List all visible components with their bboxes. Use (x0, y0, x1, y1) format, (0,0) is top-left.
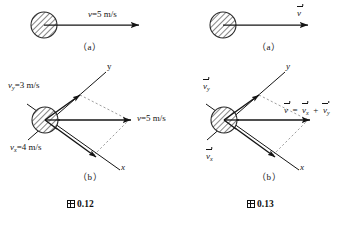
right-panel-a-group (210, 12, 308, 38)
left-figure-caption: 0.12 (67, 199, 94, 209)
left-panel-b-sublabel: （b） (78, 173, 102, 182)
cjk-tu-character-icon (247, 200, 255, 208)
left-panel-a-group (31, 12, 139, 38)
right-panel-a-velocity-label: v (297, 9, 301, 18)
left-panel-b-vx-label: vx=4 m/s (10, 143, 42, 152)
right-panel-b-dashed-line-vx-to-v (273, 120, 308, 155)
right-panel-b-x-axis-label: x (300, 163, 304, 172)
right-panel-b-vx-label: vx (206, 152, 213, 161)
right-figure-caption: 0.13 (247, 199, 274, 209)
left-panel-b-group (27, 72, 131, 170)
right-panel-b-y-axis-label: y (286, 62, 290, 71)
left-panel-b-x-axis-label: x (121, 163, 125, 172)
right-panel-b-sublabel: （b） (257, 173, 281, 182)
left-panel-a-sublabel: （a） (78, 43, 102, 52)
left-panel-b-y-axis-label: y (107, 62, 112, 71)
left-panel-b-vy-label: vy=3 m/s (8, 81, 40, 90)
left-panel-b-dashed-line-vy-to-v (80, 95, 129, 120)
physics-figure-page: v=5 m/s （a） y x vy=3 m/s vx=4 m/s v=5 m/… (0, 0, 358, 225)
left-panel-b-dashed-line-vx-to-v (94, 120, 129, 155)
right-panel-a-sublabel: （a） (257, 43, 281, 52)
right-panel-b-group (206, 72, 310, 170)
left-panel-a-velocity-label: v=5 m/s (88, 10, 117, 19)
cjk-tu-character-icon (67, 200, 75, 208)
right-panel-b-equation: v = vx + vy (284, 106, 330, 115)
right-panel-b-vy-label: vy (203, 82, 210, 91)
left-panel-b-resultant-label: v=5 m/s (137, 114, 166, 123)
right-figure-caption-number: 0.13 (257, 199, 274, 209)
left-figure-caption-number: 0.12 (77, 199, 94, 209)
